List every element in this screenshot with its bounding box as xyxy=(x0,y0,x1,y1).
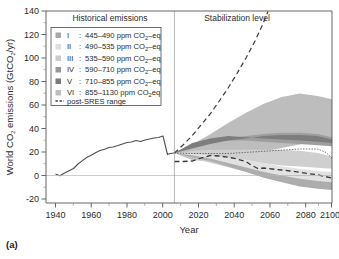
legend-label-i: 445–490 ppm CO2–eq xyxy=(85,31,161,41)
legend-label-iv: 590–710 ppm CO2–eq xyxy=(85,65,161,75)
legend-roman-ii: II xyxy=(67,42,71,51)
legend: I : 445–490 ppm CO2–eq II : 490–535 ppm … xyxy=(51,28,161,106)
legend-sep-v: : xyxy=(79,77,81,86)
svg-text:World CO2 emissions (GtCO2/yr): World CO2 emissions (GtCO2/yr) xyxy=(4,39,16,175)
x-tick-1960: 1960 xyxy=(81,210,101,220)
y-axis-title: World CO2 emissions (GtCO2/yr) xyxy=(4,39,16,175)
legend-label-ii: 490–535 ppm CO2–eq xyxy=(85,42,161,52)
legend-swatch-ii xyxy=(56,44,62,50)
legend-sep-iv: : xyxy=(79,65,81,74)
y-tick-20: 20 xyxy=(29,147,39,157)
panel-label: (a) xyxy=(6,239,18,250)
y-tick-labels: 140 120 100 80 60 40 20 0 -20 xyxy=(24,6,39,204)
x-tick-1940: 1940 xyxy=(45,210,65,220)
legend-sep-iii: : xyxy=(79,54,81,63)
annotation-historical-emissions: Historical emissions xyxy=(72,13,147,23)
legend-roman-iv: IV xyxy=(67,65,75,74)
y-tick-60: 60 xyxy=(29,100,39,110)
x-axis-ticks xyxy=(56,203,332,208)
x-tick-2000: 2000 xyxy=(153,210,173,220)
y-tick-140: 140 xyxy=(24,6,39,16)
legend-sep-i: : xyxy=(79,31,81,40)
legend-label-v: 710–855 ppm CO2–eq xyxy=(85,77,161,87)
legend-swatch-vi xyxy=(56,90,62,96)
y-tick-80: 80 xyxy=(29,77,39,87)
legend-swatch-v xyxy=(56,79,62,85)
y-tick-40: 40 xyxy=(29,124,39,134)
legend-swatch-i xyxy=(56,33,62,39)
y-tick-100: 100 xyxy=(24,53,39,63)
legend-sep-vi: : xyxy=(79,88,81,97)
legend-roman-i: I xyxy=(67,31,69,40)
x-tick-1980: 1980 xyxy=(117,210,137,220)
emissions-chart: 140 120 100 80 60 40 20 0 -20 1940 1960 … xyxy=(0,0,339,259)
legend-swatch-iv xyxy=(56,67,62,73)
y-tick-120: 120 xyxy=(24,30,39,40)
legend-label-post-sres: post-SRES range xyxy=(67,97,126,106)
y-tick--20: -20 xyxy=(26,194,39,204)
x-tick-2040: 2040 xyxy=(224,210,244,220)
legend-sep-ii: : xyxy=(79,42,81,51)
y-axis-title-mid: emissions (GtCO xyxy=(4,56,15,131)
y-axis-title-pre: World CO xyxy=(4,134,15,176)
legend-swatch-iii xyxy=(56,56,62,62)
annotation-stabilization-level: Stabilization level xyxy=(204,13,270,23)
y-axis-ticks xyxy=(42,11,47,199)
figure-panel-a: 140 120 100 80 60 40 20 0 -20 1940 1960 … xyxy=(0,0,339,259)
legend-label-iii: 535–590 ppm CO2–eq xyxy=(85,54,161,64)
x-tick-2080: 2080 xyxy=(296,210,316,220)
x-tick-labels: 1940 1960 1980 2000 2020 2040 2060 2080 … xyxy=(45,210,339,220)
x-tick-2020: 2020 xyxy=(188,210,208,220)
y-axis-title-post: /yr) xyxy=(4,39,15,53)
x-axis-title: Year xyxy=(179,224,198,235)
x-tick-2060: 2060 xyxy=(260,210,280,220)
y-tick-0: 0 xyxy=(34,171,39,181)
legend-roman-vi: VI xyxy=(67,88,74,97)
x-tick-2100: 2100 xyxy=(320,210,339,220)
legend-roman-iii: III xyxy=(67,54,73,63)
